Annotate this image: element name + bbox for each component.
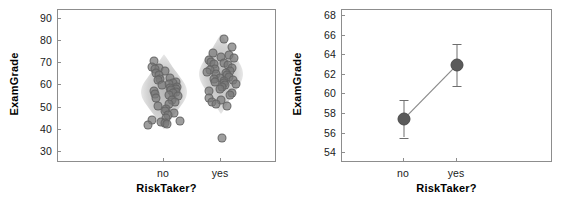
error-bar-cap xyxy=(453,44,462,45)
x-tick-label: yes xyxy=(212,167,229,179)
x-tick-mark xyxy=(163,158,164,162)
error-bar-cap xyxy=(400,138,409,139)
y-tick-label: 58 xyxy=(309,107,336,119)
y-tick-label: 70 xyxy=(25,56,52,68)
y-tick-mark xyxy=(57,18,61,19)
y-tick-mark xyxy=(57,151,61,152)
axes-frame-right xyxy=(341,9,552,162)
y-tick-mark xyxy=(57,40,61,41)
y-tick-mark xyxy=(341,35,345,36)
mean-marker xyxy=(398,112,411,125)
y-tick-label: 64 xyxy=(309,48,336,60)
y-tick-mark xyxy=(341,133,345,134)
x-tick-label: yes xyxy=(448,167,465,179)
mean-marker xyxy=(451,58,464,71)
y-tick-label: 54 xyxy=(309,146,336,158)
y-tick-mark xyxy=(341,54,345,55)
axes-frame-left xyxy=(57,9,276,162)
data-layer-left xyxy=(58,10,275,161)
data-point-marker xyxy=(176,116,185,125)
y-tick-mark xyxy=(57,129,61,130)
data-layer-right xyxy=(342,10,551,161)
y-tick-mark xyxy=(341,74,345,75)
data-point-marker xyxy=(215,84,224,93)
y-tick-mark xyxy=(57,84,61,85)
y-tick-label: 60 xyxy=(25,78,52,90)
x-tick-mark xyxy=(220,158,221,162)
x-tick-mark xyxy=(456,158,457,162)
data-point-marker xyxy=(227,42,236,51)
x-axis-title-left: RiskTaker? xyxy=(57,182,276,194)
x-tick-label: no xyxy=(397,167,409,179)
data-point-marker xyxy=(225,91,234,100)
data-point-marker xyxy=(223,102,232,111)
y-tick-label: 90 xyxy=(25,12,52,24)
x-tick-mark xyxy=(403,158,404,162)
y-axis-title-right: ExamGrade xyxy=(291,44,303,124)
data-point-marker xyxy=(163,120,172,129)
error-bar-cap xyxy=(453,86,462,87)
y-tick-label: 62 xyxy=(309,68,336,80)
y-tick-label: 68 xyxy=(309,9,336,21)
y-axis-title-left: ExamGrade xyxy=(8,44,20,124)
y-tick-label: 40 xyxy=(25,123,52,135)
y-tick-label: 66 xyxy=(309,29,336,41)
y-tick-label: 80 xyxy=(25,34,52,46)
data-point-marker xyxy=(211,100,220,109)
data-point-marker xyxy=(217,133,226,142)
data-point-marker xyxy=(144,121,153,130)
data-point-marker xyxy=(152,93,161,102)
mean-connector-line xyxy=(342,10,551,161)
data-point-marker xyxy=(220,34,229,43)
y-tick-label: 30 xyxy=(25,145,52,157)
y-tick-mark xyxy=(57,62,61,63)
x-tick-label: no xyxy=(157,167,169,179)
chart-panel-right: ExamGrade 5456586062646668 noyes RiskTak… xyxy=(285,0,570,201)
chart-panel-left: ExamGrade 30405060708090 noyes RiskTaker… xyxy=(0,0,285,201)
y-tick-mark xyxy=(341,113,345,114)
y-tick-mark xyxy=(341,152,345,153)
x-axis-title-right: RiskTaker? xyxy=(341,182,552,194)
y-tick-mark xyxy=(341,93,345,94)
error-bar-cap xyxy=(400,100,409,101)
y-tick-mark xyxy=(341,15,345,16)
y-tick-label: 50 xyxy=(25,101,52,113)
y-tick-label: 56 xyxy=(309,127,336,139)
y-tick-mark xyxy=(57,107,61,108)
data-point-marker xyxy=(232,80,241,89)
y-tick-label: 60 xyxy=(309,87,336,99)
figure-canvas: ExamGrade 30405060708090 noyes RiskTaker… xyxy=(0,0,570,201)
